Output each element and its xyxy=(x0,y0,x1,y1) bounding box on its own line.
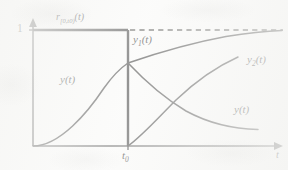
y1-label: y1(t) xyxy=(133,34,152,48)
y2-label: y2(t) xyxy=(247,54,266,68)
y-rising-curve xyxy=(33,63,128,146)
diagram-svg xyxy=(0,0,288,170)
y1-label-argument: (t) xyxy=(142,33,152,45)
t0-label-sub: 0 xyxy=(125,155,129,164)
y-axis-arrowhead xyxy=(29,18,37,27)
pulse-label: r[0,t0)(t) xyxy=(56,12,84,25)
y-left-label-argument: (t) xyxy=(65,73,75,85)
y2-label-argument: (t) xyxy=(256,53,266,65)
figure-canvas: r[0,t0)(t) y1(t) y2(t) y(t) y(t) 1 t0 t xyxy=(0,0,288,170)
x-axis-label: t xyxy=(276,150,279,161)
y-left-label: y(t) xyxy=(60,74,75,85)
pulse-label-argument: (t) xyxy=(75,11,84,22)
vertical-axis xyxy=(29,18,37,146)
y2-curve xyxy=(128,57,238,146)
horizontal-time-axis xyxy=(33,142,283,150)
y-right-label-argument: (t) xyxy=(239,103,249,115)
y-right-label: y(t) xyxy=(234,104,249,115)
x-axis-tick-label-t0: t0 xyxy=(122,150,129,164)
y-axis-tick-label-one: 1 xyxy=(17,23,23,35)
y-decaying-curve xyxy=(128,63,258,130)
pulse-curve xyxy=(33,30,128,146)
